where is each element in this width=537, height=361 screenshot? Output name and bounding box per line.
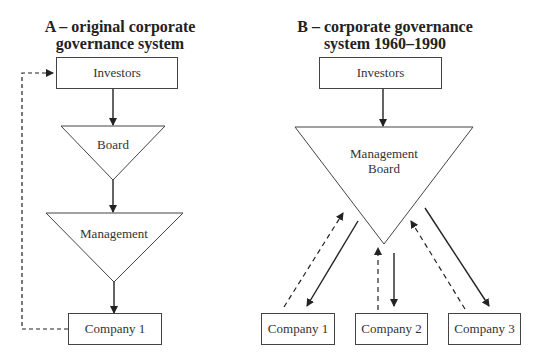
panel-a-shapes bbox=[22, 73, 183, 329]
panel-a-investors-label: Investors bbox=[93, 65, 141, 81]
management-board-triangle bbox=[295, 127, 473, 244]
diagram-canvas bbox=[0, 0, 537, 361]
panel-b-title-line2: system 1960–1990 bbox=[295, 35, 475, 52]
panel-a-company1-label: Company 1 bbox=[85, 321, 145, 337]
panel-b-company3-box: Company 3 bbox=[448, 313, 521, 345]
panel-b-investors-label: Investors bbox=[357, 65, 405, 81]
panel-b-investors-box: Investors bbox=[319, 57, 442, 89]
panel-b-title-line1: B – corporate governance bbox=[295, 18, 475, 35]
panel-b-title: B – corporate governance system 1960–199… bbox=[295, 18, 475, 52]
panel-b-shapes bbox=[284, 88, 489, 310]
dashed-feedback-company1-to-investors bbox=[22, 73, 68, 329]
panel-b-company1-label: Company 1 bbox=[268, 321, 328, 337]
panel-a-board-label: Board bbox=[83, 137, 143, 152]
board-triangle bbox=[61, 126, 165, 180]
panel-b-management-board-label: Management Board bbox=[334, 146, 434, 176]
arrow-board-to-company3 bbox=[425, 208, 489, 306]
management-triangle bbox=[46, 213, 183, 282]
panel-b-company3-label: Company 3 bbox=[454, 321, 514, 337]
panel-a-title: A – original corporate governance system bbox=[20, 18, 220, 52]
panel-b-management-board-line1: Management bbox=[334, 146, 434, 161]
panel-b-management-board-line2: Board bbox=[334, 161, 434, 176]
panel-b-company2-box: Company 2 bbox=[355, 313, 428, 345]
panel-b-company1-box: Company 1 bbox=[261, 313, 335, 345]
panel-a-investors-box: Investors bbox=[56, 57, 178, 89]
panel-a-company1-box: Company 1 bbox=[68, 313, 162, 345]
arrow-board-to-company1 bbox=[307, 221, 358, 306]
panel-a-title-line2: governance system bbox=[20, 35, 220, 52]
panel-a-management-label: Management bbox=[69, 226, 159, 241]
dashed-arrow-company3-to-board bbox=[411, 221, 465, 309]
panel-b-company2-label: Company 2 bbox=[361, 321, 421, 337]
panel-a-title-line1: A – original corporate bbox=[20, 18, 220, 35]
